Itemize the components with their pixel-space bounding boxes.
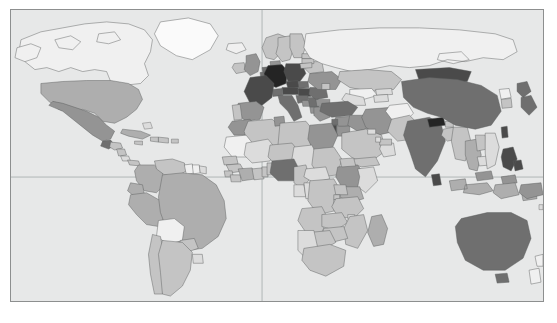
country-dominican-republic — [158, 137, 168, 143]
country-eritrea — [340, 158, 356, 167]
country-uganda — [334, 185, 348, 195]
country-slovakia — [298, 82, 309, 89]
country-french-guiana — [199, 166, 206, 174]
country-kuwait — [368, 129, 376, 134]
map-frame — [10, 9, 544, 302]
country-austria — [282, 87, 299, 94]
country-uruguay — [192, 254, 203, 263]
country-lithuania — [300, 63, 312, 69]
country-haiti — [150, 137, 158, 142]
country-liberia — [230, 175, 241, 182]
country-moldova — [322, 83, 330, 89]
country-tajikistan — [374, 94, 389, 102]
country-qatar — [376, 137, 381, 142]
country-kyrgyzstan — [376, 88, 393, 95]
country-lebanon — [332, 119, 338, 125]
country-nepal — [427, 117, 445, 127]
country-suriname — [192, 165, 200, 174]
figure-container — [0, 0, 557, 323]
country-taiwan — [501, 126, 508, 138]
country-gabon — [294, 185, 306, 197]
country-north-korea — [499, 88, 511, 99]
country-uae — [380, 139, 392, 145]
country-bahamas — [143, 122, 153, 129]
country-portugal — [232, 104, 242, 120]
country-sri-lanka — [431, 174, 441, 186]
country-nicaragua — [117, 149, 127, 156]
country-fiji — [539, 205, 543, 210]
world-choropleth-map — [11, 10, 543, 301]
country-puerto-rico — [171, 139, 178, 143]
country-south-korea — [501, 98, 512, 108]
country-senegal — [222, 156, 238, 165]
